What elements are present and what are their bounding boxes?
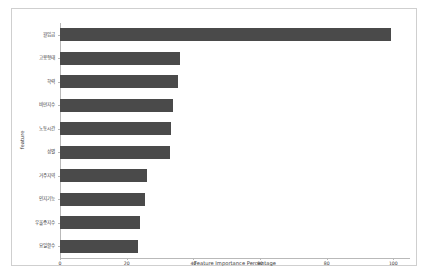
bar: [60, 75, 178, 88]
x-tick-mark: [393, 258, 394, 260]
y-tick-label: 거주지역: [39, 173, 55, 178]
bar-row: 요일활수: [60, 235, 410, 259]
bar-row: 인지기능: [60, 188, 410, 212]
y-tick-label: 고용형태: [39, 56, 55, 61]
plot-area: 월임금고용형태학력비만지수노동시간성별거주지역인지기능우울증지수요일활수 020…: [60, 23, 410, 258]
y-tick-label: 성별: [47, 150, 55, 155]
y-tick-label: 우울증지수: [35, 220, 55, 225]
bar-row: 월임금: [60, 23, 410, 47]
bar: [60, 99, 173, 112]
figure-frame: feature 월임금고용형태학력비만지수노동시간성별거주지역인지기능우울증지수…: [11, 8, 417, 266]
y-tick-label: 인지기능: [39, 197, 55, 202]
bar-row: 고용형태: [60, 47, 410, 71]
y-tick-label: 요일활수: [39, 244, 55, 249]
chart-figure: feature 월임금고용형태학력비만지수노동시간성별거주지역인지기능우울증지수…: [0, 0, 428, 278]
y-axis-title: feature: [20, 131, 25, 150]
y-tick-label: 월임금: [43, 32, 55, 37]
y-tick-label: 노동시간: [39, 126, 55, 131]
bar: [60, 122, 171, 135]
bar: [60, 52, 180, 65]
bar: [60, 28, 391, 41]
bar-row: 우울증지수: [60, 211, 410, 235]
x-tick-mark: [127, 258, 128, 260]
bar-row: 성별: [60, 141, 410, 165]
bar: [60, 193, 145, 206]
bar: [60, 169, 147, 182]
y-tick-label: 비만지수: [39, 103, 55, 108]
x-tick-mark: [327, 258, 328, 260]
bar-row: 거주지역: [60, 164, 410, 188]
bar: [60, 146, 170, 159]
bar-row: 비만지수: [60, 94, 410, 118]
bar-row: 노동시간: [60, 117, 410, 141]
bar: [60, 216, 140, 229]
x-axis-spine: [60, 258, 410, 259]
y-tick-label: 학력: [47, 79, 55, 84]
x-tick-mark: [60, 258, 61, 260]
bar: [60, 240, 138, 253]
bar-row: 학력: [60, 70, 410, 94]
x-axis-title: Feature Importance Percentage: [60, 261, 410, 266]
